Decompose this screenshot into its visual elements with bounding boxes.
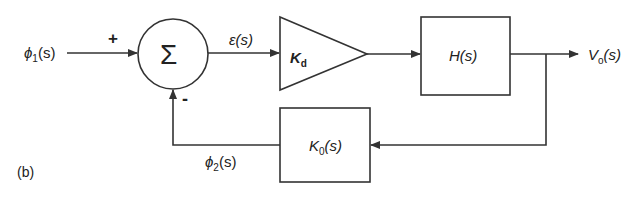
minus-sign: - — [182, 90, 188, 108]
feedback-to-sum-path — [173, 90, 280, 145]
sigma-symbol: Σ — [160, 41, 177, 69]
plus-sign: + — [108, 30, 118, 47]
feedback-path — [371, 54, 546, 145]
input-label: ϕ1(s) — [24, 45, 55, 64]
plant-label: H(s) — [449, 48, 477, 63]
error-label: ε(s) — [229, 32, 253, 47]
block-diagram — [0, 0, 627, 201]
figure-label: (b) — [17, 165, 34, 179]
feedback-block-label: K0(s) — [309, 138, 342, 157]
feedback-signal-label: ϕ2(s) — [205, 154, 236, 173]
output-label: Vo(s) — [588, 47, 621, 66]
amplifier-label: Kd — [290, 50, 307, 69]
